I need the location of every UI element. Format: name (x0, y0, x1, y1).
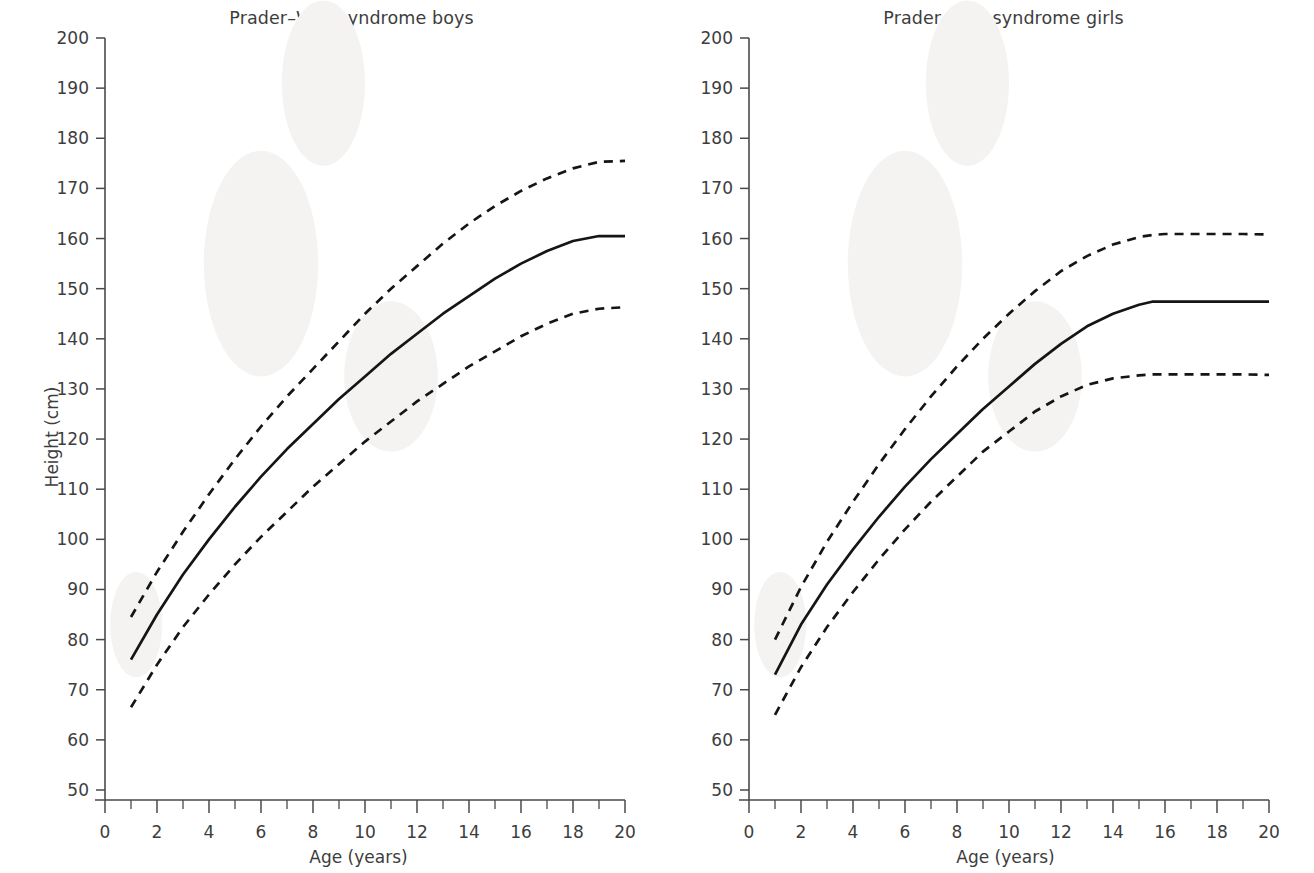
x-tick-label: 12 (1050, 822, 1072, 842)
x-tick-label: 4 (204, 822, 215, 842)
x-tick-label: 0 (744, 822, 755, 842)
y-tick-label: 130 (701, 379, 733, 399)
y-tick-label: 190 (701, 78, 733, 98)
growth-chart-figure: Prader–Willi syndrome boys Height (cm) A… (0, 0, 1314, 873)
x-tick-label: 10 (354, 822, 376, 842)
x-tick-label: 16 (1154, 822, 1176, 842)
y-tick-label: 50 (711, 780, 733, 800)
y-tick-label: 100 (701, 529, 733, 549)
y-tick-label: 50 (67, 780, 89, 800)
x-tick-label: 8 (952, 822, 963, 842)
watermark-texture (754, 0, 1082, 677)
x-tick-label: 10 (998, 822, 1020, 842)
y-tick-label: 180 (701, 128, 733, 148)
y-tick-label: 90 (67, 579, 89, 599)
y-tick-label: 200 (701, 28, 733, 48)
y-tick-label: 60 (711, 730, 733, 750)
x-tick-label: 6 (256, 822, 267, 842)
y-tick-label: 70 (67, 680, 89, 700)
y-tick-label: 160 (57, 229, 89, 249)
x-tick-label: 14 (1102, 822, 1124, 842)
y-tick-label: 60 (67, 730, 89, 750)
y-tick-label: 100 (57, 529, 89, 549)
x-tick-label: 18 (1206, 822, 1228, 842)
y-tick-label: 140 (57, 329, 89, 349)
x-tick-label: 4 (848, 822, 859, 842)
y-tick-label: 200 (57, 28, 89, 48)
plot-area-girls: 2001901801701601501401301201101009080706… (657, 0, 1314, 873)
y-tick-label: 120 (57, 429, 89, 449)
x-tick-label: 18 (562, 822, 584, 842)
x-tick-label: 6 (900, 822, 911, 842)
x-tick-label: 0 (100, 822, 111, 842)
y-tick-label: 80 (67, 630, 89, 650)
panel-girls: Prader–Willi syndrome girls Height (cm) … (657, 0, 1314, 873)
panel-boys: Prader–Willi syndrome boys Height (cm) A… (0, 0, 657, 873)
x-tick-label: 8 (308, 822, 319, 842)
y-tick-label: 170 (57, 178, 89, 198)
y-tick-label: 150 (57, 279, 89, 299)
y-tick-label: 120 (701, 429, 733, 449)
y-tick-label: 190 (57, 78, 89, 98)
y-tick-label: 80 (711, 630, 733, 650)
x-tick-label: 12 (406, 822, 428, 842)
x-tick-label: 20 (614, 822, 636, 842)
y-tick-label: 70 (711, 680, 733, 700)
y-tick-label: 90 (711, 579, 733, 599)
y-tick-label: 110 (57, 479, 89, 499)
y-tick-label: 130 (57, 379, 89, 399)
watermark-texture (110, 0, 438, 677)
y-tick-label: 180 (57, 128, 89, 148)
y-tick-label: 140 (701, 329, 733, 349)
x-tick-label: 2 (796, 822, 807, 842)
y-tick-label: 170 (701, 178, 733, 198)
x-tick-label: 2 (152, 822, 163, 842)
plot-area-boys: 2001901801701601501401301201101009080706… (0, 0, 657, 873)
y-tick-label: 110 (701, 479, 733, 499)
x-tick-label: 20 (1258, 822, 1280, 842)
x-tick-label: 16 (510, 822, 532, 842)
y-tick-label: 160 (701, 229, 733, 249)
x-tick-label: 14 (458, 822, 480, 842)
y-tick-label: 150 (701, 279, 733, 299)
